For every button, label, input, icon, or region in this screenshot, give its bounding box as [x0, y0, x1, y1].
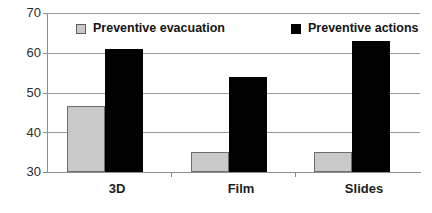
category-label-slides: Slides: [314, 182, 414, 196]
bar-slides-preventive-evacuation: [314, 152, 352, 172]
y-tick-label: 30: [7, 165, 41, 178]
legend-swatch-gray-square-icon: [76, 24, 86, 34]
y-axis-labels: 70 60 50 40 30: [0, 0, 41, 213]
category-label-3d: 3D: [67, 182, 167, 196]
bar-slides-preventive-actions: [352, 41, 390, 172]
x-axis-tick: [295, 172, 296, 177]
category-label-film: Film: [191, 182, 291, 196]
grid-line-70: [47, 13, 420, 14]
legend-swatch-black-square-icon: [291, 24, 301, 34]
legend-label: Preventive actions: [308, 22, 418, 35]
bar-3d-preventive-actions: [105, 49, 143, 172]
plot-area: [47, 13, 420, 172]
chart-legend: Preventive evacuation Preventive actions: [76, 22, 418, 35]
bar-film-preventive-actions: [229, 77, 267, 172]
y-tick-label: 60: [7, 46, 41, 59]
bar-film-preventive-evacuation: [191, 152, 229, 172]
legend-label: Preventive evacuation: [93, 22, 225, 35]
bar-3d-preventive-evacuation: [67, 106, 105, 172]
x-axis-tick: [171, 172, 172, 177]
legend-entry-preventive-actions: Preventive actions: [291, 22, 418, 35]
y-tick-label: 40: [7, 126, 41, 139]
x-axis-line: [47, 172, 421, 173]
y-tick-label: 50: [7, 86, 41, 99]
y-tick-label: 70: [7, 6, 41, 19]
bar-chart: 70 60 50 40 30 3D Film Slides: [0, 0, 432, 213]
legend-entry-preventive-evacuation: Preventive evacuation: [76, 22, 225, 35]
